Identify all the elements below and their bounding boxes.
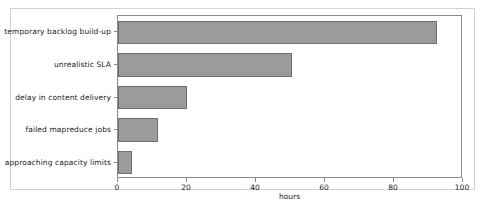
x-axis-tick-label: 100 (455, 183, 469, 192)
x-axis-tick-label: 0 (115, 183, 120, 192)
bar (118, 21, 437, 44)
y-axis-tick-label: delay in content delivery (15, 92, 111, 101)
x-axis-tick-mark (186, 178, 187, 182)
y-axis-tick-label: approaching capacity limits (5, 157, 111, 166)
y-axis-tick-label: failed mapreduce jobs (26, 125, 111, 134)
x-axis-tick-mark (462, 178, 463, 182)
x-axis-tick-mark (393, 178, 394, 182)
y-axis-tick-mark (114, 64, 118, 65)
x-axis-tick-label: 20 (181, 183, 191, 192)
x-axis-tick-label: 80 (388, 183, 398, 192)
y-axis-tick-mark (114, 31, 118, 32)
bar (118, 53, 292, 76)
x-axis-tick-label: 60 (319, 183, 329, 192)
y-axis-tick-mark (114, 129, 118, 130)
x-axis-tick-mark (117, 178, 118, 182)
x-axis-tick-mark (324, 178, 325, 182)
bar (118, 86, 187, 109)
bar-chart-figure: temporary backlog build-upunrealistic SL… (0, 0, 485, 206)
y-axis-labels: temporary backlog build-upunrealistic SL… (0, 15, 117, 178)
x-axis-tick-mark (255, 178, 256, 182)
x-axis-tick-label: 40 (250, 183, 260, 192)
bar (118, 151, 132, 174)
y-axis-tick-label: temporary backlog build-up (4, 27, 111, 36)
bars-container (118, 16, 461, 177)
plot-area (117, 15, 462, 178)
x-axis-title: hours (117, 192, 462, 201)
y-axis-tick-mark (114, 97, 118, 98)
y-axis-tick-mark (114, 162, 118, 163)
y-axis-tick-label: unrealistic SLA (54, 59, 111, 68)
bar (118, 118, 158, 141)
